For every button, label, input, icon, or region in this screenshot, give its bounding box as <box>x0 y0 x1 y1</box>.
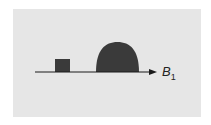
dome-pulse <box>96 42 139 72</box>
square-pulse <box>55 59 70 72</box>
axis-label-subscript: 1 <box>171 72 176 82</box>
axis-arrowhead-icon <box>149 69 157 75</box>
axis-label-main: B <box>162 64 171 79</box>
axis-label: B1 <box>162 64 176 82</box>
diagram-canvas <box>0 0 211 125</box>
